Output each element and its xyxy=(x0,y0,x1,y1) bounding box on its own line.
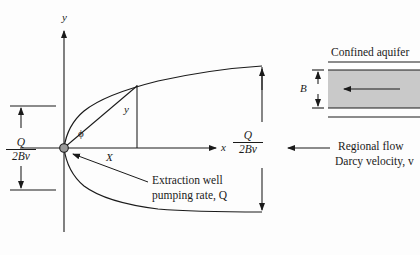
left-fraction-numerator: Q xyxy=(6,136,36,148)
phi-angle-label: ϕ xyxy=(78,128,84,139)
well-callout-line-2-text: pumping rate, Q xyxy=(152,189,227,201)
ordinate-label: y xyxy=(124,104,129,115)
well-callout-line-2: pumping rate, Q xyxy=(152,190,227,202)
regional-flow-line-2: Darcy velocity, v xyxy=(335,156,414,168)
right-fraction-numerator: Q xyxy=(233,129,263,141)
hydrogeology-capture-zone-figure: y x ϕ X y Extraction well pumping rate, … xyxy=(0,0,420,255)
abscissa-label: X xyxy=(106,152,113,163)
left-fraction-denominator: 2Bv xyxy=(6,150,36,162)
left-stagnation-fraction: Q 2Bv xyxy=(6,136,36,163)
regional-flow-line-2-text: Darcy velocity, v xyxy=(335,155,414,167)
right-stagnation-fraction: Q 2Bv xyxy=(233,129,263,156)
figure-vector-layer xyxy=(0,0,420,255)
aquifer-thickness-label: B xyxy=(300,83,307,94)
radius-vector-line xyxy=(65,86,137,147)
well-callout-line-1: Extraction well xyxy=(152,175,223,187)
extraction-well-marker xyxy=(60,144,69,153)
aquifer-title-label: Confined aquifer xyxy=(331,47,409,59)
right-fraction-denominator: 2Bv xyxy=(233,143,263,155)
regional-flow-line-1: Regional flow xyxy=(338,141,403,153)
y-axis-label: y xyxy=(62,12,67,23)
confined-aquifer-block xyxy=(312,62,420,117)
x-axis-label: x xyxy=(221,142,226,153)
